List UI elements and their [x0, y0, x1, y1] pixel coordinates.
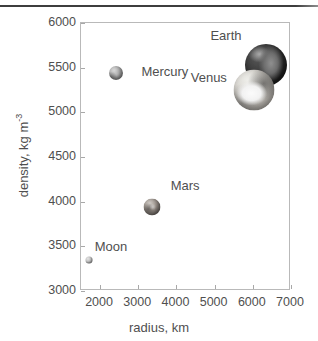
data-label-venus: Venus: [191, 70, 227, 83]
data-label-earth: Earth: [210, 29, 241, 42]
data-label-moon: Moon: [95, 239, 128, 252]
data-point-mars[interactable]: [144, 198, 161, 215]
scatter-chart-figure: 3000350040004500500055006000 20003000400…: [0, 0, 318, 341]
data-point-mercury[interactable]: [109, 66, 123, 80]
y-axis-tick-label: 3000: [32, 284, 76, 297]
data-label-mercury: Mercury: [141, 64, 188, 77]
x-axis-title: radius, km: [0, 320, 318, 335]
x-axis-tick-mark: [253, 285, 254, 289]
y-axis-tick-mark: [81, 246, 85, 247]
y-axis-tick-label: 3500: [32, 239, 76, 252]
y-axis-tick-mark: [81, 68, 85, 69]
y-axis-tick-label: 4000: [32, 195, 76, 208]
x-axis-tick-mark: [138, 285, 139, 289]
data-label-mars: Mars: [171, 178, 200, 191]
y-axis-tick-mark: [81, 112, 85, 113]
x-axis-tick-mark: [215, 285, 216, 289]
x-axis-tick-mark: [291, 285, 292, 289]
x-axis-tick-mark: [176, 285, 177, 289]
data-point-venus[interactable]: [233, 69, 274, 110]
y-axis-tick-mark: [81, 291, 85, 292]
y-axis-tick-label-group: 3000350040004500500055006000: [28, 0, 76, 341]
y-axis-tick-mark: [81, 202, 85, 203]
y-axis-tick-label: 5500: [32, 61, 76, 74]
y-axis-tick-mark: [81, 23, 85, 24]
x-axis-tick-mark: [100, 285, 101, 289]
x-axis-tick-label-group: 200030004000500060007000: [0, 296, 318, 312]
y-axis-title: density, kg m-3: [16, 86, 31, 226]
y-axis-tick-label: 5000: [32, 105, 76, 118]
x-axis-tick-label: 7000: [265, 296, 315, 309]
y-axis-tick-label: 4500: [32, 150, 76, 163]
y-axis-tick-mark: [81, 157, 85, 158]
y-axis-tick-label: 6000: [32, 16, 76, 29]
data-point-moon[interactable]: [86, 256, 93, 263]
y-axis-exponent: -3: [14, 114, 24, 122]
